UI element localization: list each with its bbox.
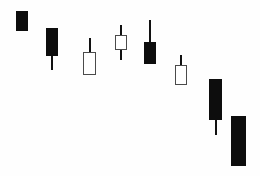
candlestick-4-body bbox=[115, 35, 127, 50]
candlestick-5-upper-wick bbox=[149, 20, 151, 42]
candlestick-4-upper-wick bbox=[120, 25, 122, 35]
candlestick-7-lower-wick bbox=[215, 120, 217, 135]
candlestick-5-body bbox=[144, 42, 156, 64]
candlestick-6-body bbox=[175, 65, 187, 85]
candlestick-7-body bbox=[209, 79, 222, 120]
candlestick-2-lower-wick bbox=[51, 56, 53, 70]
candlestick-3-upper-wick bbox=[89, 38, 91, 52]
candlestick-4-lower-wick bbox=[120, 50, 122, 60]
candlestick-3-body bbox=[83, 52, 96, 75]
candlestick-6-upper-wick bbox=[180, 55, 182, 65]
candlestick-2-body bbox=[46, 28, 58, 56]
candlestick-8-body bbox=[231, 116, 246, 166]
candlestick-chart bbox=[0, 0, 260, 176]
candlestick-1-body bbox=[16, 11, 28, 31]
chart-plot-area bbox=[0, 0, 260, 176]
